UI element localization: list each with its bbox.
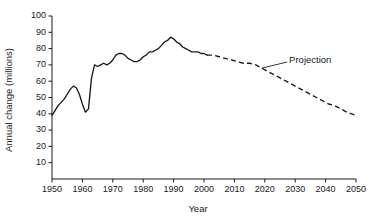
x-axis-tick-label: 1970 bbox=[103, 184, 123, 194]
y-axis-title: Annual change (millions) bbox=[3, 48, 14, 152]
y-axis-tick-label: 50 bbox=[36, 92, 46, 102]
x-axis-tick-label: 1950 bbox=[42, 184, 62, 194]
y-axis-tick-label: 40 bbox=[36, 108, 46, 118]
x-axis-tick-label: 1960 bbox=[72, 184, 92, 194]
x-axis-tick-label: 2040 bbox=[316, 184, 336, 194]
y-axis-tick-label: 100 bbox=[31, 10, 46, 20]
x-axis-tick-label: 1990 bbox=[164, 184, 184, 194]
y-axis-tick-label: 70 bbox=[36, 59, 46, 69]
y-axis-tick-label: 90 bbox=[36, 27, 46, 37]
annual-population-change-line-chart: 102030405060708090100 195019601970198019… bbox=[0, 0, 371, 219]
y-axis-ticks: 102030405060708090100 bbox=[31, 10, 52, 167]
historical-series-line bbox=[52, 37, 207, 115]
x-axis-tick-label: 2020 bbox=[255, 184, 275, 194]
projection-series-line bbox=[207, 55, 356, 115]
x-axis-title: Year bbox=[188, 203, 207, 214]
x-axis-tick-label: 2050 bbox=[346, 184, 366, 194]
x-axis-tick-label: 2030 bbox=[285, 184, 305, 194]
chart-container: 102030405060708090100 195019601970198019… bbox=[0, 0, 371, 219]
y-axis-tick-label: 80 bbox=[36, 43, 46, 53]
projection-leader-line bbox=[262, 62, 287, 68]
y-axis-tick-label: 10 bbox=[36, 157, 46, 167]
x-axis-tick-label: 2010 bbox=[224, 184, 244, 194]
y-axis-tick-label: 20 bbox=[36, 141, 46, 151]
x-axis-ticks: 1950196019701980199020002010202020302040… bbox=[42, 179, 366, 194]
projection-annotation-label: Projection bbox=[289, 54, 331, 65]
x-axis-tick-label: 2000 bbox=[194, 184, 214, 194]
y-axis-tick-label: 60 bbox=[36, 76, 46, 86]
y-axis-tick-label: 30 bbox=[36, 124, 46, 134]
x-axis-tick-label: 1980 bbox=[133, 184, 153, 194]
